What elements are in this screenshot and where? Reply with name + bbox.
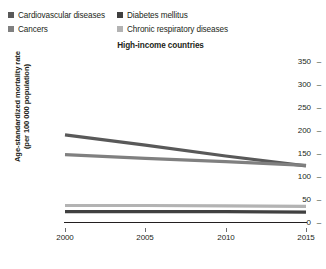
x-axis-tick-label: 2005 — [125, 233, 165, 242]
series-line-chronic-respiratory-diseases — [65, 206, 306, 207]
x-axis-line — [64, 222, 307, 223]
x-axis-tick-label: 2010 — [206, 233, 246, 242]
x-axis-tick-mark — [65, 228, 66, 232]
x-axis-tick-mark — [306, 228, 307, 232]
x-axis-tick-label: 2000 — [45, 233, 85, 242]
x-axis-tick-mark — [145, 228, 146, 232]
x-axis-tick-label: 2015 — [286, 233, 326, 242]
x-axis-tick-mark — [226, 228, 227, 232]
